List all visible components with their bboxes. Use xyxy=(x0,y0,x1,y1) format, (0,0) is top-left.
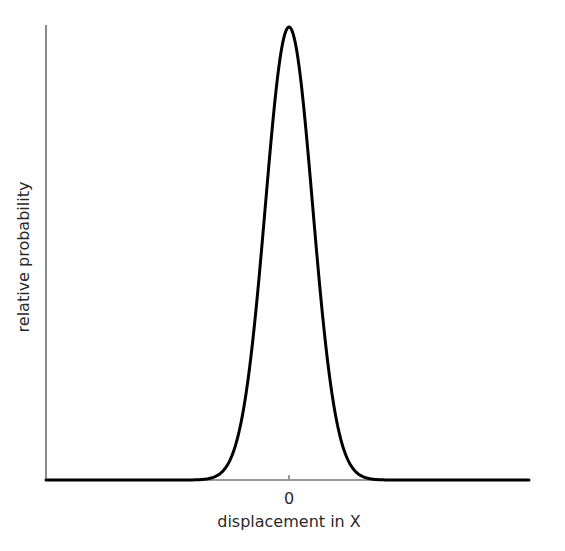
x-tick-label-zero: 0 xyxy=(284,489,294,508)
x-axis-label: displacement in X xyxy=(217,512,361,531)
chart-canvas xyxy=(0,0,565,551)
y-axis-label: relative probability xyxy=(14,182,33,333)
gaussian-curve xyxy=(46,27,529,480)
